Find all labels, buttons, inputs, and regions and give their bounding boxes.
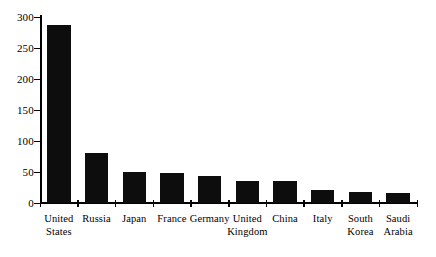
- y-axis-tick-label: 250: [0, 43, 34, 54]
- bar: [349, 192, 372, 203]
- bar: [311, 190, 334, 203]
- x-axis-label: Saudi Arabia: [371, 213, 425, 238]
- y-axis-tick-label: 150: [0, 105, 34, 116]
- bar: [198, 176, 221, 203]
- bars-container: [40, 17, 417, 203]
- bar: [85, 153, 108, 203]
- y-axis-tick-label: 50: [0, 167, 34, 178]
- y-axis-tick-label: 200: [0, 74, 34, 85]
- y-axis-tick-label: 300: [0, 12, 34, 23]
- bar: [160, 173, 183, 203]
- bar: [123, 172, 146, 203]
- bar: [47, 25, 70, 203]
- y-axis-tick-label: 100: [0, 136, 34, 147]
- bar-chart: 050100150200250300 United StatesRussiaJa…: [0, 0, 436, 257]
- bar: [386, 193, 409, 203]
- y-axis-tick-label: 0: [0, 198, 34, 209]
- bar: [236, 181, 259, 203]
- bar: [273, 181, 296, 203]
